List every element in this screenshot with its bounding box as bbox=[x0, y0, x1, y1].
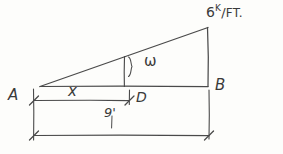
label-support-a: A bbox=[8, 88, 18, 103]
load-unit-feet: FT. bbox=[226, 6, 243, 20]
diagram-canvas bbox=[0, 0, 283, 154]
label-distance-x: x bbox=[68, 84, 77, 99]
omega-brace bbox=[129, 57, 133, 77]
label-intensity-omega: ω bbox=[144, 54, 157, 69]
label-load-magnitude: 6K/FT. bbox=[206, 4, 243, 19]
peak-ordinate-line bbox=[208, 28, 209, 87]
load-value: 6 bbox=[206, 4, 215, 20]
label-span-dimension: 9' bbox=[104, 106, 116, 119]
label-support-b: B bbox=[215, 78, 225, 93]
dimension-line-span bbox=[34, 135, 209, 136]
label-section-d: D bbox=[136, 90, 147, 104]
engineering-sketch: A B D x ω 9' 6K/FT. bbox=[0, 0, 283, 154]
